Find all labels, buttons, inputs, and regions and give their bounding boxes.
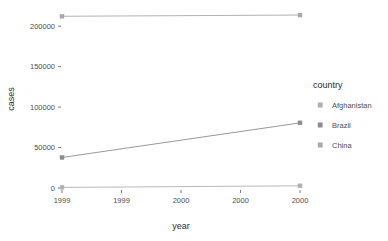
y-axis: 050000100000150000200000 <box>30 22 61 193</box>
data-point <box>298 184 302 188</box>
data-point <box>298 13 302 17</box>
x-tick-label: 2000 <box>173 196 190 205</box>
data-point <box>298 121 302 125</box>
y-tick-label: 0 <box>51 184 55 193</box>
y-tick-label: 100000 <box>30 103 55 112</box>
legend-key-brazil[interactable] <box>318 123 322 127</box>
legend-key-china[interactable] <box>318 143 322 147</box>
y-tick-label: 200000 <box>30 22 55 31</box>
legend-key-afghanistan[interactable] <box>318 103 322 107</box>
legend-label-china: China <box>332 141 352 150</box>
y-tick-label: 50000 <box>34 143 55 152</box>
legend: countryAfghanistanBrazilChina <box>313 80 372 150</box>
x-tick-label: 2000 <box>232 196 249 205</box>
y-tick-label: 150000 <box>30 62 55 71</box>
plot-panel <box>62 10 300 188</box>
data-point <box>60 14 64 18</box>
line-chart: 0500001000001500002000001999199920002000… <box>0 0 388 241</box>
legend-label-afghanistan: Afghanistan <box>332 101 372 110</box>
x-tick-label: 1999 <box>54 196 71 205</box>
legend-title: country <box>313 80 343 90</box>
data-point <box>60 185 64 189</box>
legend-label-brazil: Brazil <box>332 121 351 130</box>
y-axis-title: cases <box>6 87 16 111</box>
x-axis-title: year <box>172 221 190 231</box>
data-point <box>60 155 64 159</box>
x-tick-label: 1999 <box>113 196 130 205</box>
x-axis: 19991999200020002000 <box>54 190 309 205</box>
chart-container: 0500001000001500002000001999199920002000… <box>0 0 388 241</box>
x-tick-label: 2000 <box>292 196 309 205</box>
